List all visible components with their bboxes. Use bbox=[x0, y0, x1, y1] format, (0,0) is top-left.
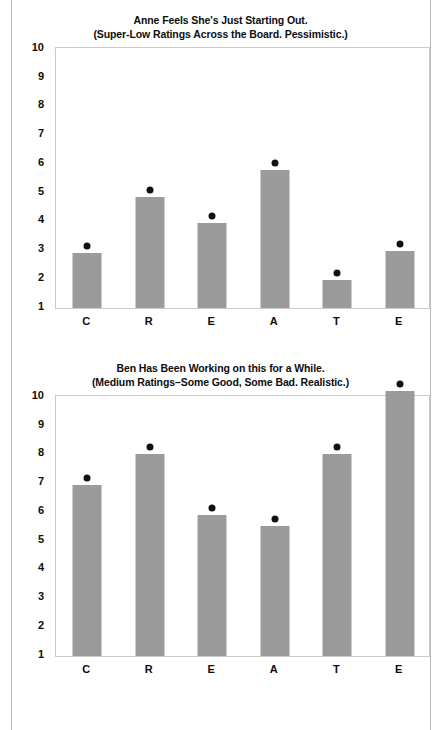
bar bbox=[260, 170, 289, 308]
y-tick-label: 5 bbox=[38, 185, 44, 197]
bar-slot bbox=[244, 396, 307, 656]
bar bbox=[385, 391, 414, 656]
y-axis-ticks-2: 12345678910 bbox=[0, 395, 48, 657]
chart-subtitle-2: (Medium Ratings–Some Good, Some Bad. Rea… bbox=[22, 376, 419, 390]
bar-slot bbox=[244, 48, 307, 308]
y-tick-label: 9 bbox=[38, 70, 44, 82]
y-tick-label: 5 bbox=[38, 533, 44, 545]
x-tick-label: E bbox=[180, 315, 243, 327]
y-tick-label: 3 bbox=[38, 590, 44, 602]
bar-slot bbox=[369, 48, 432, 308]
x-tick-label: R bbox=[118, 315, 181, 327]
value-marker-dot bbox=[146, 186, 153, 193]
bar bbox=[135, 197, 164, 308]
x-tick-label: E bbox=[368, 663, 431, 675]
y-tick-label: 2 bbox=[38, 619, 44, 631]
bar bbox=[73, 485, 102, 657]
bar-slot bbox=[181, 48, 244, 308]
x-tick-label: C bbox=[55, 663, 118, 675]
chart-title-block-2: Ben Has Been Working on this for a While… bbox=[0, 362, 441, 389]
x-tick-label: T bbox=[305, 315, 368, 327]
value-marker-dot bbox=[84, 474, 91, 481]
y-tick-label: 6 bbox=[38, 504, 44, 516]
value-marker-dot bbox=[271, 516, 278, 523]
bar-slot bbox=[306, 396, 369, 656]
bar bbox=[135, 454, 164, 656]
chart-title-1: Anne Feels She's Just Starting Out. bbox=[22, 14, 419, 28]
y-tick-label: 10 bbox=[32, 389, 44, 401]
y-tick-label: 9 bbox=[38, 418, 44, 430]
value-marker-dot bbox=[146, 444, 153, 451]
chart-title-2: Ben Has Been Working on this for a While… bbox=[22, 362, 419, 376]
value-marker-dot bbox=[396, 381, 403, 388]
y-tick-label: 7 bbox=[38, 475, 44, 487]
value-marker-dot bbox=[334, 444, 341, 451]
bar bbox=[198, 223, 227, 308]
y-tick-label: 10 bbox=[32, 41, 44, 53]
y-tick-label: 1 bbox=[38, 300, 44, 312]
value-marker-dot bbox=[396, 241, 403, 248]
y-axis-ticks-1: 12345678910 bbox=[0, 47, 48, 309]
y-tick-label: 2 bbox=[38, 271, 44, 283]
figure-ben: Ben Has Been Working on this for a While… bbox=[0, 362, 441, 691]
y-tick-label: 4 bbox=[38, 561, 44, 573]
bar-slot bbox=[181, 396, 244, 656]
bar-series-1 bbox=[56, 48, 429, 308]
value-marker-dot bbox=[209, 212, 216, 219]
bar-slot bbox=[119, 396, 182, 656]
bar-slot bbox=[56, 396, 119, 656]
plot-wrapper-2: 12345678910 CREATE bbox=[0, 395, 441, 691]
chart-title-block-1: Anne Feels She's Just Starting Out. (Sup… bbox=[0, 14, 441, 41]
x-tick-label: R bbox=[118, 663, 181, 675]
bar-slot bbox=[119, 48, 182, 308]
bar bbox=[323, 280, 352, 308]
value-marker-dot bbox=[334, 270, 341, 277]
bar-series-2 bbox=[56, 396, 429, 656]
plot-area-1 bbox=[55, 47, 430, 309]
y-tick-label: 3 bbox=[38, 242, 44, 254]
bar bbox=[385, 251, 414, 308]
x-tick-label: C bbox=[55, 315, 118, 327]
bar bbox=[198, 515, 227, 656]
y-tick-label: 8 bbox=[38, 446, 44, 458]
plot-area-2 bbox=[55, 395, 430, 657]
bar-slot bbox=[306, 48, 369, 308]
bar-slot bbox=[369, 396, 432, 656]
y-tick-label: 4 bbox=[38, 213, 44, 225]
x-tick-label: T bbox=[305, 663, 368, 675]
bar bbox=[323, 454, 352, 656]
bar bbox=[73, 253, 102, 308]
x-tick-label: E bbox=[368, 315, 431, 327]
x-tick-label: E bbox=[180, 663, 243, 675]
plot-wrapper-1: 12345678910 CREATE bbox=[0, 47, 441, 343]
bar bbox=[260, 526, 289, 656]
x-tick-label: A bbox=[243, 663, 306, 675]
y-tick-label: 6 bbox=[38, 156, 44, 168]
value-marker-dot bbox=[271, 159, 278, 166]
y-tick-label: 7 bbox=[38, 127, 44, 139]
x-axis-ticks-2: CREATE bbox=[55, 663, 430, 683]
figure-anne: Anne Feels She's Just Starting Out. (Sup… bbox=[0, 14, 441, 343]
x-axis-ticks-1: CREATE bbox=[55, 315, 430, 335]
chart-subtitle-1: (Super-Low Ratings Across the Board. Pes… bbox=[22, 28, 419, 42]
y-tick-label: 1 bbox=[38, 648, 44, 660]
x-tick-label: A bbox=[243, 315, 306, 327]
value-marker-dot bbox=[84, 242, 91, 249]
value-marker-dot bbox=[209, 504, 216, 511]
y-tick-label: 8 bbox=[38, 98, 44, 110]
bar-slot bbox=[56, 48, 119, 308]
